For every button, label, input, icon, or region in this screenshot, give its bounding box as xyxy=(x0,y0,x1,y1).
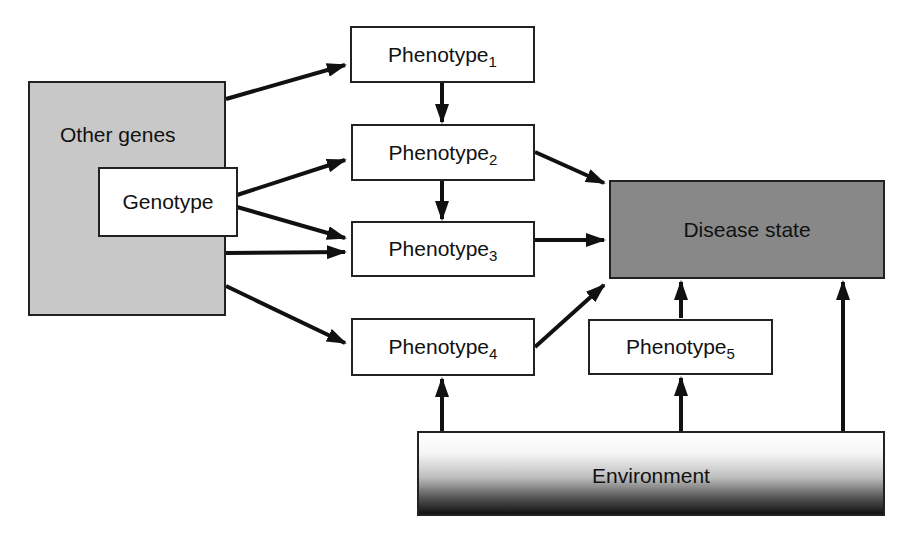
arrow-othergenes-phenotype3 xyxy=(226,252,345,253)
phenotype5-node: Phenotype5 xyxy=(588,319,773,375)
genotype-label: Genotype xyxy=(122,190,213,214)
disease-state-label: Disease state xyxy=(683,218,810,242)
arrow-othergenes-phenotype4 xyxy=(226,286,345,343)
genotype-node: Genotype xyxy=(98,167,238,237)
phenotype4-label: Phenotype4 xyxy=(389,335,498,359)
phenotype1-node: Phenotype1 xyxy=(350,26,535,83)
phenotype2-node: Phenotype2 xyxy=(351,124,535,181)
arrow-genotype-phenotype3 xyxy=(237,207,345,238)
environment-label: Environment xyxy=(592,464,710,488)
phenotype5-label: Phenotype5 xyxy=(626,335,735,359)
arrow-phenotype2-disease xyxy=(535,152,604,183)
environment-node: Environment xyxy=(417,431,885,516)
phenotype2-label: Phenotype2 xyxy=(389,141,498,165)
phenotype3-node: Phenotype3 xyxy=(351,221,535,277)
other-genes-label: Other genes xyxy=(60,123,176,147)
disease-state-node: Disease state xyxy=(609,180,885,279)
arrow-othergenes-phenotype1 xyxy=(226,65,345,99)
phenotype4-node: Phenotype4 xyxy=(351,318,535,376)
arrow-genotype-phenotype2 xyxy=(237,160,345,195)
phenotype3-label: Phenotype3 xyxy=(389,237,498,261)
phenotype1-label: Phenotype1 xyxy=(388,43,497,67)
